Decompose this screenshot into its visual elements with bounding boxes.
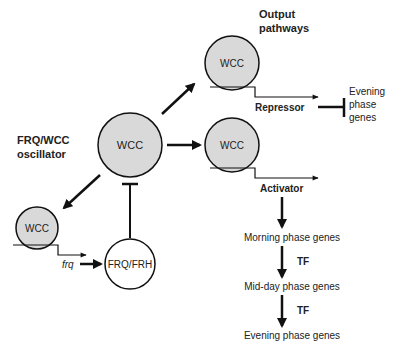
diagram-canvas: FRQ/WCC oscillator Output pathways WCC W… xyxy=(0,0,394,354)
frq-frh-node: FRQ/FRH xyxy=(105,239,155,289)
wcc-activator-label: WCC xyxy=(220,140,244,151)
cascade-midday: Mid-day phase genes xyxy=(244,281,340,292)
frq-frh-label: FRQ/FRH xyxy=(108,259,152,270)
evening-label-line1: Evening xyxy=(349,86,385,97)
output-label-line2: pathways xyxy=(259,22,309,34)
arrow-to-repressor-wcc xyxy=(162,84,194,114)
wcc-frq-node: WCC xyxy=(16,207,58,249)
wcc-repressor-label: WCC xyxy=(220,58,244,69)
wcc-center-label: WCC xyxy=(117,139,143,151)
frq-gene-label: frq xyxy=(62,259,74,270)
wcc-activator-node: WCC xyxy=(205,118,259,172)
cascade-morning: Morning phase genes xyxy=(244,232,340,243)
output-label-line1: Output xyxy=(259,8,295,20)
cascade-evening: Evening phase genes xyxy=(244,330,340,341)
arrow-to-frq-wcc xyxy=(64,175,100,208)
wcc-center-node: WCC xyxy=(98,113,162,177)
tf1-label: TF xyxy=(297,256,309,267)
activator-label: Activator xyxy=(260,183,303,194)
oscillator-label-line1: FRQ/WCC xyxy=(17,134,70,146)
frq-promoter-line xyxy=(13,245,86,255)
tf2-label: TF xyxy=(297,305,309,316)
oscillator-label-line2: oscillator xyxy=(17,148,67,160)
repressor-label: Repressor xyxy=(255,102,305,113)
wcc-repressor-node: WCC xyxy=(205,36,259,90)
evening-label-line3: genes xyxy=(349,112,376,123)
evening-label-line2: phase xyxy=(349,99,377,110)
wcc-frq-label: WCC xyxy=(25,223,49,234)
